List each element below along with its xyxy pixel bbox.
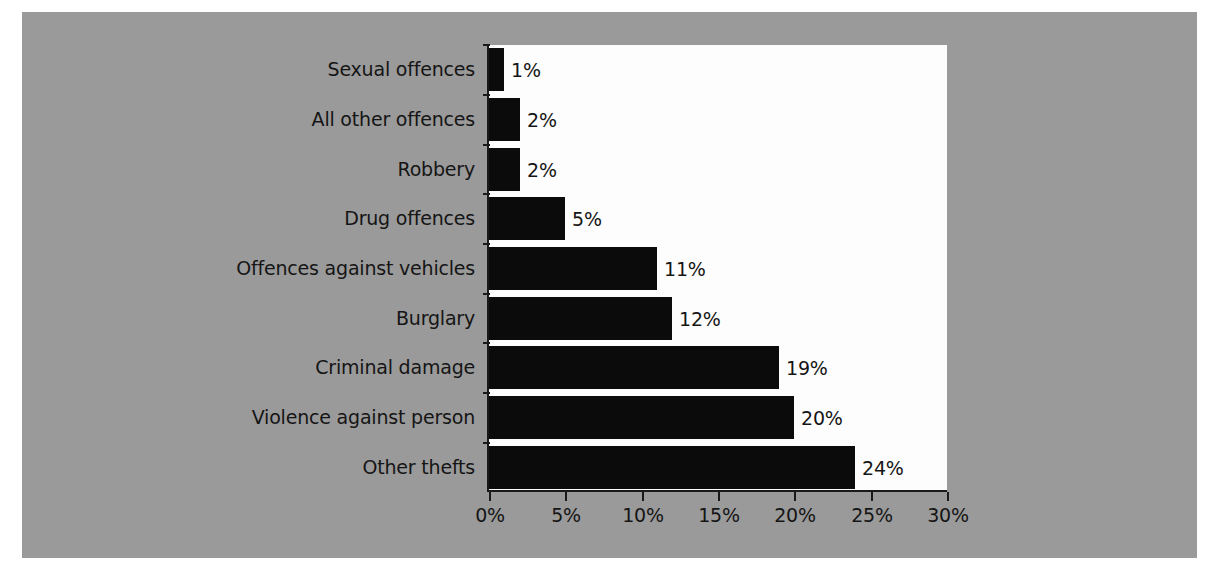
x-axis-tick-label: 20% (774, 504, 816, 526)
bar (489, 48, 504, 91)
bar-value-label: 11% (664, 258, 706, 280)
x-axis-tick-label: 10% (622, 504, 664, 526)
y-axis-tick (483, 442, 490, 444)
plot-area: 1%2%2%5%11%12%19%20%24% 0%5%10%15%20%25%… (487, 45, 947, 492)
bar (489, 98, 520, 141)
bar-row: 5% (489, 197, 947, 240)
bar-value-label: 5% (572, 208, 602, 230)
bar-row: 11% (489, 247, 947, 290)
bar-value-label: 2% (527, 159, 557, 181)
y-axis-tick (483, 392, 490, 394)
y-axis-category-label: Sexual offences (328, 48, 475, 91)
bar-row: 20% (489, 396, 947, 439)
y-axis-tick (483, 94, 490, 96)
bar-series: 1%2%2%5%11%12%19%20%24% (489, 45, 947, 492)
y-axis-category-label: Burglary (396, 297, 475, 340)
bar (489, 148, 520, 191)
y-axis-category-label: All other offences (312, 98, 475, 141)
chart-panel: Sexual offencesAll other offencesRobbery… (22, 12, 1197, 558)
bar-row: 24% (489, 446, 947, 489)
x-axis-tick-label: 25% (851, 504, 893, 526)
y-axis-tick (483, 293, 490, 295)
x-axis-tick (642, 492, 644, 501)
y-axis-category-label: Drug offences (344, 197, 475, 240)
x-axis-tick-label: 15% (698, 504, 740, 526)
bar (489, 446, 855, 489)
bar-row: 19% (489, 346, 947, 389)
bar-value-label: 19% (786, 357, 828, 379)
x-axis-tick-label: 0% (475, 504, 505, 526)
x-axis-tick (565, 492, 567, 501)
y-axis-category-label: Criminal damage (315, 346, 475, 389)
x-axis-tick-label: 30% (927, 504, 969, 526)
bar (489, 247, 657, 290)
bar-row: 12% (489, 297, 947, 340)
y-axis-category-label: Violence against person (252, 396, 475, 439)
chart-figure: Sexual offencesAll other offencesRobbery… (0, 0, 1215, 578)
y-axis-category-label: Other thefts (363, 446, 475, 489)
bar (489, 197, 565, 240)
bar-value-label: 12% (679, 308, 721, 330)
bar-value-label: 2% (527, 109, 557, 131)
x-axis-tick (489, 492, 491, 501)
y-axis-tick (483, 193, 490, 195)
y-axis-category-label: Offences against vehicles (236, 247, 475, 290)
y-axis-tick (483, 243, 490, 245)
bar-value-label: 20% (801, 407, 843, 429)
x-axis-tick (718, 492, 720, 501)
y-axis-tick (483, 144, 490, 146)
y-axis-category-labels: Sexual offencesAll other offencesRobbery… (22, 45, 481, 492)
bar (489, 396, 794, 439)
bar-row: 2% (489, 148, 947, 191)
x-axis-tick (871, 492, 873, 501)
x-axis-tick (794, 492, 796, 501)
bar-row: 1% (489, 48, 947, 91)
x-axis-tick-label: 5% (551, 504, 581, 526)
bar-value-label: 24% (862, 457, 904, 479)
bar-value-label: 1% (511, 59, 541, 81)
x-axis-tick (947, 492, 949, 501)
bar-row: 2% (489, 98, 947, 141)
y-axis-tick (483, 44, 490, 46)
y-axis-category-label: Robbery (398, 148, 475, 191)
bar (489, 297, 672, 340)
bar (489, 346, 779, 389)
y-axis-tick (483, 342, 490, 344)
